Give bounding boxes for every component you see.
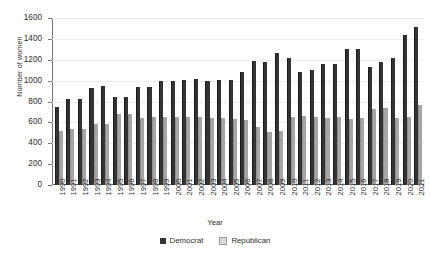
- bar-group: [354, 18, 366, 185]
- bar-group: [215, 18, 227, 185]
- bar-group: [285, 18, 297, 185]
- bar-group: [401, 18, 413, 185]
- bar-republican-2015: [349, 119, 353, 185]
- bar-group: [331, 18, 343, 185]
- y-axis-tick: [48, 60, 52, 61]
- y-axis-tick-label: 800: [2, 98, 42, 106]
- bar-republican-1995: [117, 114, 121, 185]
- bar-republican-2001: [186, 117, 190, 185]
- bar-republican-1996: [128, 114, 132, 185]
- bar-republican-1999: [163, 117, 167, 185]
- bar-republican-2008: [267, 132, 271, 185]
- y-axis-tick: [48, 185, 52, 186]
- bar-group: [99, 18, 111, 185]
- bar-group: [204, 18, 216, 185]
- y-axis-tick-label: 600: [2, 118, 42, 126]
- bar-group: [366, 18, 378, 185]
- bar-republican-2004: [221, 118, 225, 185]
- x-axis-title: Year: [0, 218, 430, 227]
- bar-republican-2000: [175, 117, 179, 185]
- bar-republican-2019: [395, 118, 399, 185]
- bar-group: [308, 18, 320, 185]
- bar-republican-2020: [407, 117, 411, 185]
- bar-republican-2014: [337, 117, 341, 185]
- bar-group: [412, 18, 424, 185]
- bar-republican-2011: [302, 116, 306, 185]
- bar-group: [296, 18, 308, 185]
- y-axis-tick-label: 1600: [2, 14, 42, 22]
- bar-group: [239, 18, 251, 185]
- bar-republican-2006: [244, 120, 248, 185]
- bar-republican-1993: [94, 124, 98, 185]
- bar-group: [343, 18, 355, 185]
- dark-square-swatch: [160, 238, 166, 244]
- legend-label: Republican: [231, 236, 270, 245]
- y-axis-tick: [48, 122, 52, 123]
- y-axis-tick-label: 1000: [2, 77, 42, 85]
- bar-series-layer: [53, 18, 424, 185]
- bar-group: [262, 18, 274, 185]
- bar-group: [181, 18, 193, 185]
- y-axis-tick: [48, 18, 52, 19]
- bar-group: [250, 18, 262, 185]
- bar-group: [389, 18, 401, 185]
- bar-republican-1990: [59, 131, 63, 185]
- legend-item-republican[interactable]: Republican: [219, 236, 270, 245]
- bar-republican-2010: [291, 117, 295, 185]
- bar-republican-2012: [314, 117, 318, 185]
- bar-group: [378, 18, 390, 185]
- y-axis-tick: [48, 39, 52, 40]
- bar-republican-2013: [325, 118, 329, 185]
- bar-group: [227, 18, 239, 185]
- y-axis-tick: [48, 143, 52, 144]
- bar-group: [273, 18, 285, 185]
- y-axis-tick: [48, 164, 52, 165]
- bar-group: [53, 18, 65, 185]
- bar-group: [88, 18, 100, 185]
- y-axis-tick: [48, 102, 52, 103]
- bar-group: [320, 18, 332, 185]
- y-axis-tick: [48, 81, 52, 82]
- bar-republican-1994: [105, 124, 109, 185]
- plot-area: 16001400120010008006004002000: [52, 18, 424, 185]
- bar-republican-2009: [279, 131, 283, 185]
- bar-republican-1997: [140, 118, 144, 185]
- legend-label: Democrat: [170, 236, 204, 245]
- bar-group: [65, 18, 77, 185]
- bar-group: [157, 18, 169, 185]
- bar-group: [134, 18, 146, 185]
- y-axis-tick-label: 200: [2, 160, 42, 168]
- bar-republican-2005: [233, 119, 237, 185]
- bar-republican-2018: [383, 108, 387, 185]
- y-axis-tick-label: 0: [2, 181, 42, 189]
- bar-republican-2016: [360, 118, 364, 185]
- legend-item-democrat[interactable]: Democrat: [160, 236, 204, 245]
- bar-republican-2003: [210, 118, 214, 185]
- bar-republican-2007: [256, 127, 260, 185]
- bar-group: [146, 18, 158, 185]
- bar-republican-1998: [152, 117, 156, 185]
- y-axis-tick-label: 1400: [2, 35, 42, 43]
- bar-republican-2002: [198, 117, 202, 185]
- y-axis-tick-label: 400: [2, 139, 42, 147]
- light-square-swatch: [219, 237, 227, 245]
- y-axis-tick-label: 1200: [2, 56, 42, 64]
- chart-legend: DemocratRepublican: [0, 236, 430, 245]
- bar-group: [123, 18, 135, 185]
- bar-chart: Number of women 160014001200100080060040…: [0, 0, 430, 257]
- bar-republican-1991: [70, 129, 74, 185]
- bar-republican-1992: [82, 129, 86, 185]
- bar-group: [169, 18, 181, 185]
- bar-republican-2021: [418, 105, 422, 185]
- x-axis-tick-label: 2021: [418, 179, 426, 196]
- bar-republican-2017: [372, 109, 376, 185]
- bar-group: [111, 18, 123, 185]
- bar-group: [192, 18, 204, 185]
- bar-group: [76, 18, 88, 185]
